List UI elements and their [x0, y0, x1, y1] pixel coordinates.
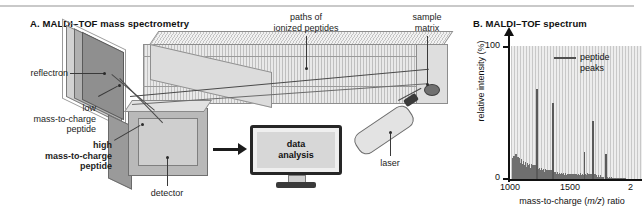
- leader-detector: [167, 158, 168, 186]
- y-tick-label-0: 0: [474, 172, 500, 182]
- leader-dot-low-mz: [118, 84, 121, 87]
- y-axis-line: [508, 34, 510, 182]
- x-tick-label-1500: 1500: [556, 182, 584, 192]
- monitor-base: [276, 182, 316, 188]
- monitor-screen: data analysis: [257, 132, 335, 168]
- label-ion-paths: paths of ionized peptides: [258, 12, 354, 33]
- leader-dot-ion-paths: [305, 67, 308, 70]
- leader-dot-detector: [166, 156, 169, 159]
- legend-label-peptide-peaks: peptide peaks: [580, 52, 610, 73]
- label-laser: laser: [362, 158, 418, 169]
- process-arrow-head: [238, 143, 247, 155]
- spectrum-peak-bar: [584, 152, 586, 179]
- y-axis-arrowhead: [504, 27, 514, 36]
- process-arrow-shaft: [213, 148, 239, 151]
- panel-b-chart: B. MALDI–TOF spectrum 100 0 1000 1500 2 …: [470, 0, 642, 217]
- data-analysis-monitor: data analysis: [250, 125, 342, 187]
- y-axis-title: relative intensity (%): [476, 26, 486, 136]
- leader-laser: [390, 134, 391, 156]
- panel-a-title: A. MALDI–TOF mass spectrometry: [30, 18, 189, 29]
- spectrum-peak-bar: [552, 103, 554, 179]
- leader-dot-sample-matrix: [426, 83, 429, 86]
- leader-sample-matrix: [427, 36, 428, 84]
- monitor-bezel: data analysis: [250, 125, 342, 175]
- leader-dot-reflectron: [103, 72, 106, 75]
- label-sample-matrix: sample matrix: [396, 12, 458, 33]
- leader-ion-paths: [306, 36, 307, 68]
- x-axis-title: mass-to-charge (m/z) ratio: [488, 196, 642, 206]
- y-tick-0: [503, 178, 509, 180]
- spectrum-peak-bar: [536, 89, 538, 179]
- label-low-mz-peptide: low mass-to-charge peptide: [0, 103, 96, 135]
- label-reflectron: reflectron: [0, 68, 68, 79]
- leader-dot-laser: [389, 131, 392, 134]
- label-high-mz-peptide: high mass-to-charge peptide: [0, 140, 112, 172]
- leader-reflectron: [70, 73, 104, 74]
- figure-root: A. MALDI–TOF mass spectrometry: [0, 0, 642, 217]
- x-tick-label-1000: 1000: [496, 182, 524, 192]
- spectrum-peak-bar: [592, 121, 594, 179]
- x-axis-line: [508, 179, 642, 181]
- x-tick-label-2000: 2: [628, 182, 642, 192]
- y-tick-100: [503, 46, 509, 48]
- label-detector: detector: [132, 188, 202, 199]
- monitor-screen-text: data analysis: [278, 139, 314, 161]
- legend-swatch-peptide-peaks: [554, 57, 576, 59]
- chart-legend: peptide peaks: [554, 52, 610, 73]
- spectrum-peak-bar: [605, 154, 607, 179]
- panel-b-title: B. MALDI–TOF spectrum: [473, 18, 587, 29]
- panel-a-diagram: A. MALDI–TOF mass spectrometry: [0, 0, 470, 217]
- laser-body: [351, 102, 417, 158]
- leader-dot-high-mz: [141, 123, 144, 126]
